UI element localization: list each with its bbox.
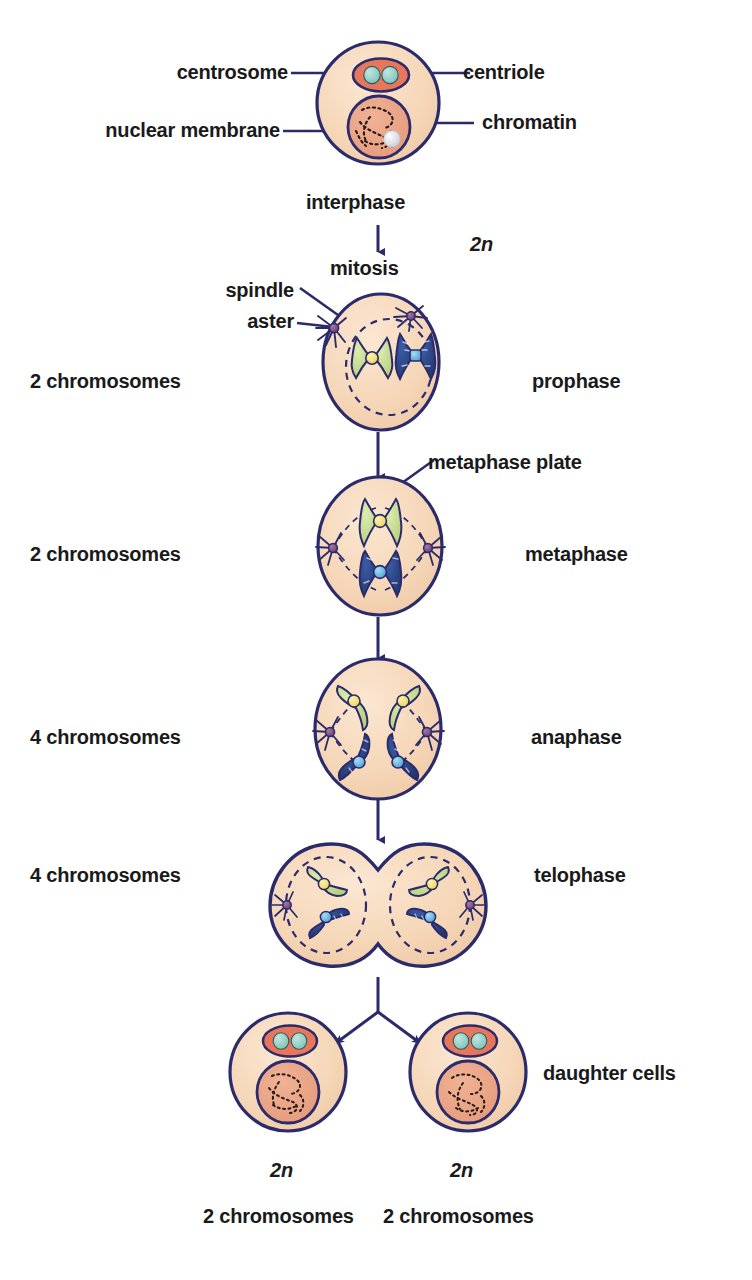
centrosome-daughter-right (443, 1026, 497, 1057)
label-metaphase-plate: metaphase plate (428, 452, 582, 472)
cell-interphase (317, 42, 439, 164)
nucleus-daughter-right (437, 1061, 499, 1123)
nucleus-interphase (348, 96, 410, 158)
label-phase-metaphase: metaphase (525, 544, 628, 564)
centrosome-interphase (353, 59, 409, 92)
label-ploidy-top: 2n (470, 234, 493, 254)
cell-anaphase (313, 659, 444, 799)
label-centriole: centriole (463, 62, 545, 82)
nucleus-daughter-left (257, 1061, 319, 1123)
label-count-prophase: 2 chromosomes (30, 371, 181, 391)
label-aster: aster (150, 311, 294, 331)
label-interphase: interphase (306, 192, 405, 212)
label-spindle: spindle (150, 280, 294, 300)
mitosis-diagram: centrosome centriole nuclear membrane ch… (0, 0, 752, 1280)
label-nuclear-membrane: nuclear membrane (10, 120, 280, 140)
label-ploidy-daughter-right: 2n (450, 1160, 473, 1180)
label-daughter-cells: daughter cells (543, 1063, 676, 1083)
label-centrosome: centrosome (20, 62, 288, 82)
arrow-telophase-to-daughters (336, 977, 420, 1043)
label-count-daughter-left: 2 chromosomes (203, 1206, 354, 1226)
label-chromatin: chromatin (482, 112, 577, 132)
centrosome-daughter-left (263, 1026, 317, 1057)
label-count-telophase: 4 chromosomes (30, 865, 181, 885)
label-count-daughter-right: 2 chromosomes (383, 1206, 534, 1226)
label-count-metaphase: 2 chromosomes (30, 544, 181, 564)
label-mitosis: mitosis (330, 258, 399, 278)
label-count-anaphase: 4 chromosomes (30, 727, 181, 747)
label-phase-anaphase: anaphase (531, 727, 622, 747)
cell-prophase (316, 294, 439, 430)
cell-telophase (270, 844, 486, 966)
label-phase-telophase: telophase (534, 865, 626, 885)
cell-metaphase (316, 477, 445, 615)
label-phase-prophase: prophase (532, 371, 620, 391)
cell-daughter-left (230, 1013, 346, 1131)
label-ploidy-daughter-left: 2n (270, 1160, 293, 1180)
cell-daughter-right (410, 1013, 526, 1131)
